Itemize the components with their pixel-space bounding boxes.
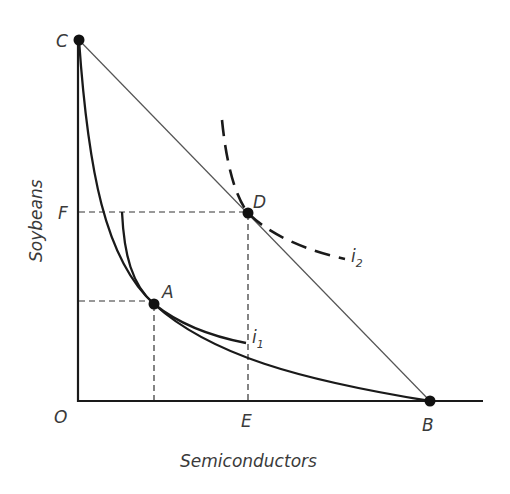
- point-d-marker: [243, 208, 254, 219]
- point-c-marker: [74, 35, 85, 46]
- label-b: B: [422, 415, 434, 435]
- label-i1: i1: [252, 327, 264, 351]
- label-e: E: [241, 411, 252, 431]
- indifference-curve-i2: [222, 120, 345, 259]
- label-c: C: [56, 31, 68, 51]
- label-d: D: [253, 192, 266, 212]
- label-i2-subscript: 2: [356, 257, 363, 270]
- point-a-marker: [149, 299, 160, 310]
- y-axis-title: Soybeans: [26, 179, 46, 262]
- trade-gains-diagram: C D A B E F O i1 i2 Semiconductors Soybe…: [0, 0, 510, 494]
- label-f: F: [58, 203, 68, 223]
- label-origin: O: [54, 407, 67, 427]
- label-i1-subscript: 1: [257, 338, 264, 351]
- indifference-curve-i1: [122, 212, 246, 343]
- x-axis-title: Semiconductors: [180, 451, 317, 471]
- label-i2: i2: [351, 246, 363, 270]
- point-b-marker: [425, 396, 436, 407]
- label-a: A: [161, 282, 174, 302]
